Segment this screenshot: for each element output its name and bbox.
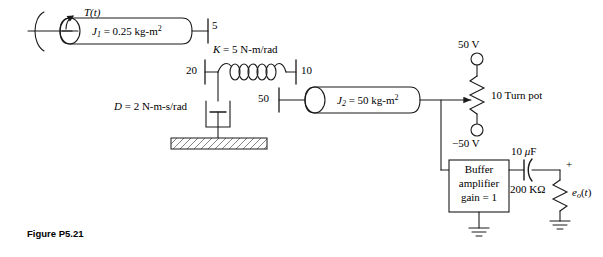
buffer-amplifier-text: Buffer amplifier gain = 1 [449, 163, 509, 204]
torque-label: T(t) [84, 6, 101, 19]
figure-caption: Figure P5.21 [27, 228, 84, 239]
buffer-line-3: gain = 1 [449, 191, 509, 205]
buffer-line-1: Buffer [449, 163, 509, 177]
j1-label: J1 = 0.25 kg-m2 [92, 24, 162, 39]
output-polarity-plus: + [566, 158, 572, 171]
cap-plate-curved [528, 159, 532, 181]
output-voltage-label: eo(t) [572, 186, 591, 200]
pot-zigzag-element [470, 76, 484, 114]
supply-negative-label: −50 V [452, 137, 480, 150]
supply-positive-label: 50 V [458, 38, 480, 51]
buffer-line-2: amplifier [449, 177, 509, 191]
spring-k-coil [218, 64, 296, 80]
buffer-ground-symbol [469, 212, 489, 236]
mechanical-ground-bar [171, 138, 267, 149]
capacitor-symbol [524, 159, 532, 181]
potentiometer-label: 10 Turn pot [491, 89, 542, 102]
capacitor-label: 10 μF [511, 145, 536, 158]
terminal-minus-50v [471, 124, 483, 136]
terminal-plus-50v [471, 53, 483, 65]
load-resistor-label: 200 KΩ [510, 183, 545, 196]
damper-d-label: D = 2 N-m-s/rad [114, 100, 187, 113]
spring-lead-right [275, 64, 286, 72]
potentiometer-group [470, 53, 484, 136]
gear-5-label: 5 [212, 19, 218, 32]
gear-10-upper-label: 10 [301, 64, 312, 77]
spring-k-label: K = 5 N-m/rad [213, 43, 278, 56]
load-resistor-zigzag [553, 180, 567, 211]
j2-label: J2 = 50 kg-m2 [337, 93, 399, 108]
j2-left-face [305, 87, 325, 113]
circuit-diagram-canvas [0, 0, 603, 257]
spring-lead-left [218, 64, 231, 72]
gear-50-label: 50 [258, 92, 269, 105]
output-ground-symbol [550, 221, 570, 229]
figure-p5-21: T(t) J1 = 0.25 kg-m2 5 K = 5 N-m/rad 20 … [0, 0, 603, 257]
gear-20-label: 20 [186, 64, 197, 77]
damper-d-symbol [206, 101, 230, 138]
